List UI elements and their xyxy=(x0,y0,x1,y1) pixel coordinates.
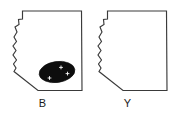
arizona-map-y xyxy=(85,0,170,102)
panel-label-b: B xyxy=(0,97,85,110)
state-outline-path-y xyxy=(98,11,167,91)
map-panel-b: B xyxy=(0,0,85,120)
figure-root: B Y xyxy=(0,0,170,120)
panel-label-y: Y xyxy=(85,97,170,110)
arizona-map-b xyxy=(0,0,85,102)
map-panel-y: Y xyxy=(85,0,170,120)
